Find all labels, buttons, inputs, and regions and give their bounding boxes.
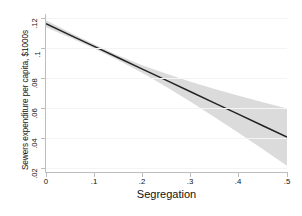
y-tick-label: .12 bbox=[30, 18, 39, 29]
y-tick-label-group: .06 bbox=[0, 102, 40, 120]
x-tick-label: 0 bbox=[36, 177, 56, 186]
y-tick-label-group: .08 bbox=[0, 72, 40, 90]
gridline bbox=[46, 168, 287, 169]
y-axis-tick bbox=[41, 78, 45, 79]
y-tick-label-group: .04 bbox=[0, 132, 40, 150]
y-tick-label: .04 bbox=[30, 138, 39, 149]
x-tick-label: .5 bbox=[277, 177, 297, 186]
y-axis-tick bbox=[41, 168, 45, 169]
chart-figure: Sewers expenditure per capita, $1000s .1… bbox=[0, 0, 302, 216]
x-axis-line bbox=[45, 172, 288, 173]
y-tick-label-group: .1 bbox=[0, 43, 40, 61]
y-tick-label: .1 bbox=[32, 51, 41, 57]
fit-line bbox=[46, 24, 287, 137]
plot-area bbox=[46, 14, 287, 172]
chart-svg bbox=[46, 14, 287, 172]
y-tick-label: .06 bbox=[30, 108, 39, 119]
y-axis-tick bbox=[41, 108, 45, 109]
confidence-band bbox=[46, 20, 287, 165]
gridline bbox=[46, 48, 287, 49]
x-axis-title: Segregation bbox=[46, 188, 287, 200]
gridline bbox=[46, 138, 287, 139]
y-tick-label-group: .02 bbox=[0, 162, 40, 180]
x-tick-label: .1 bbox=[84, 177, 104, 186]
y-tick-label-group: .12 bbox=[0, 12, 40, 30]
y-tick-label: .08 bbox=[30, 78, 39, 89]
x-tick-label: .3 bbox=[180, 177, 200, 186]
y-axis-tick bbox=[41, 18, 45, 19]
x-tick-label: .4 bbox=[228, 177, 248, 186]
gridline bbox=[46, 18, 287, 19]
y-axis-tick bbox=[41, 48, 45, 49]
gridline bbox=[46, 78, 287, 79]
y-axis-line bbox=[45, 14, 46, 173]
x-tick-label: .2 bbox=[132, 177, 152, 186]
gridline bbox=[46, 108, 287, 109]
y-axis-tick bbox=[41, 138, 45, 139]
y-axis-title: Sewers expenditure per capita, $1000s bbox=[20, 15, 30, 185]
